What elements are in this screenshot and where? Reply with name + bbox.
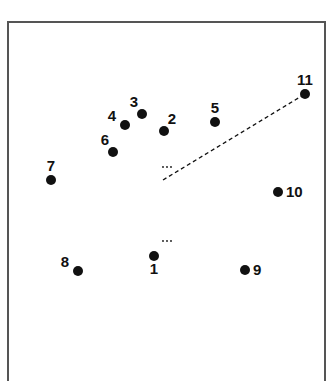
point-1: 1 (149, 251, 159, 277)
ellipsis-dot (166, 240, 168, 242)
point-2: 2 (159, 110, 176, 136)
point-label: 7 (47, 157, 55, 174)
point-label: 4 (108, 107, 117, 124)
point-label: 6 (101, 131, 109, 148)
points-layer: 1234567891011 (46, 71, 313, 278)
point-marker (210, 117, 220, 127)
point-label: 11 (297, 71, 313, 88)
point-label: 9 (253, 261, 261, 278)
point-marker (240, 265, 250, 275)
point-label: 5 (211, 99, 219, 116)
ellipsis-mark (162, 166, 172, 168)
ellipsis-dot (166, 166, 168, 168)
point-marker (300, 89, 310, 99)
ellipsis-dot (162, 240, 164, 242)
ellipsis-dot (170, 240, 172, 242)
point-marker (137, 109, 147, 119)
point-11: 11 (297, 71, 313, 99)
ellipsis-dot (170, 166, 172, 168)
point-4: 4 (108, 107, 130, 130)
point-label: 8 (61, 253, 69, 270)
point-marker (159, 126, 169, 136)
ellipsis-dot (162, 166, 164, 168)
point-label: 1 (150, 260, 158, 277)
ellipsis-mark (162, 240, 172, 242)
point-marker (108, 147, 118, 157)
point-marker (73, 266, 83, 276)
point-10: 10 (273, 183, 303, 200)
point-9: 9 (240, 261, 261, 278)
point-8: 8 (61, 253, 83, 276)
point-6: 6 (101, 131, 118, 157)
point-label: 3 (130, 93, 138, 110)
point-5: 5 (210, 99, 220, 127)
point-label: 10 (286, 183, 303, 200)
point-7: 7 (46, 157, 56, 185)
point-marker (46, 175, 56, 185)
dashed-connector-center-11 (163, 94, 305, 180)
point-3: 3 (130, 93, 147, 119)
point-label: 2 (168, 110, 176, 127)
ellipsis-layer (162, 166, 172, 242)
point-marker (120, 120, 130, 130)
point-marker (273, 187, 283, 197)
connections-layer (163, 94, 305, 180)
